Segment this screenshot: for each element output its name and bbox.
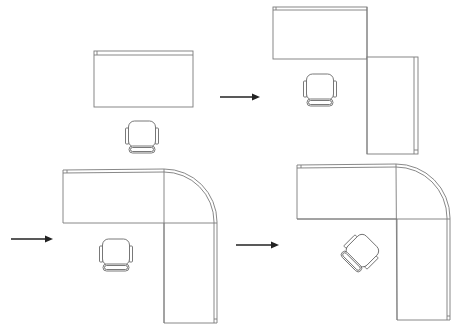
- desk-surface: [63, 169, 217, 323]
- layout-curved-corner-desk-rotated-chair: [297, 164, 450, 320]
- desk-surface: [94, 51, 193, 107]
- arrow-right-icon: [11, 236, 53, 243]
- chair-icon: [304, 74, 337, 106]
- layout-l-shaped-desk: [273, 7, 418, 154]
- chair-icon: [100, 239, 133, 271]
- chair-icon: [337, 230, 383, 276]
- arrow-right-icon: [220, 94, 260, 101]
- arrow-right-icon: [236, 242, 279, 249]
- layout-curved-corner-desk: [63, 169, 217, 323]
- desk-main-surface: [273, 7, 367, 59]
- desk-surface: [297, 164, 450, 320]
- chair-icon: [126, 121, 159, 153]
- desk-return-surface: [367, 57, 418, 154]
- layout-straight-desk: [94, 51, 193, 153]
- layout-diagram: [0, 0, 459, 334]
